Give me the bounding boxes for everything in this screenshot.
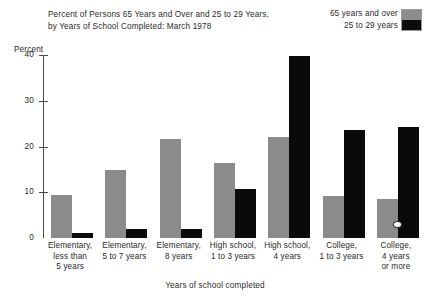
bar-65-and-over-5	[323, 196, 344, 238]
x-category-label-0: Elementary,less than5 years	[39, 241, 101, 273]
x-category-label-3-line-1: 1 to 3 years	[202, 252, 264, 263]
x-category-label-0-line-1: less than	[39, 252, 101, 263]
x-category-label-2-line-0: Elementary,	[148, 241, 210, 252]
x-category-label-5: College,1 to 3 years	[310, 241, 372, 262]
legend-label-65-and-over: 65 years and over	[330, 8, 398, 20]
x-category-label-0-line-0: Elementary,	[39, 241, 101, 252]
plot-area: 010203040	[43, 55, 423, 238]
bar-25-to-29-3	[235, 189, 256, 238]
bar-65-and-over-4	[268, 137, 289, 238]
chart-legend: 65 years and over 25 to 29 years	[330, 8, 422, 31]
x-category-label-2: Elementary,8 years	[148, 241, 210, 262]
bar-25-to-29-4	[289, 56, 310, 238]
chart-title-line-1: Percent of Persons 65 Years and Over and…	[48, 9, 323, 21]
x-category-label-3: High school,1 to 3 years	[202, 241, 264, 262]
x-category-label-4-line-0: High school,	[256, 241, 318, 252]
y-tick-label-20: 20	[25, 142, 34, 151]
bar-65-and-over-3	[214, 163, 235, 238]
y-tick-label-10: 10	[25, 187, 34, 196]
x-category-label-4-line-1: 4 years	[256, 252, 318, 263]
x-category-label-1-line-0: Elementary,	[93, 241, 155, 252]
x-category-label-5-line-0: College,	[310, 241, 372, 252]
bar-65-and-over-2	[160, 139, 181, 238]
chart-title-line-2: by Years of School Completed: March 1978	[48, 21, 323, 33]
x-category-label-5-line-1: 1 to 3 years	[310, 252, 372, 263]
chart-title: Percent of Persons 65 Years and Over and…	[48, 9, 323, 32]
bar-25-to-29-0	[72, 233, 93, 238]
y-tick-label-30: 30	[25, 96, 34, 105]
chart-page: Percent of Persons 65 Years and Over and…	[0, 0, 430, 301]
scan-artifact	[393, 221, 402, 228]
y-tick-label-0: 0	[29, 233, 34, 242]
legend-swatch-black	[402, 20, 421, 30]
bar-25-to-29-2	[181, 229, 202, 238]
x-category-label-0-line-2: 5 years	[39, 262, 101, 273]
bar-25-to-29-5	[344, 130, 365, 238]
x-category-label-6-line-0: College,	[365, 241, 427, 252]
bar-65-and-over-0	[51, 195, 72, 238]
x-axis-label: Years of school completed	[0, 281, 430, 290]
x-category-label-6-line-2: or more	[365, 262, 427, 273]
bars-layer	[43, 55, 423, 238]
legend-swatch	[401, 9, 422, 31]
x-axis-category-labels: Elementary,less than5 yearsElementary,5 …	[43, 241, 423, 281]
bar-65-and-over-6	[377, 199, 398, 238]
bar-25-to-29-1	[126, 229, 147, 238]
x-category-label-1-line-1: 5 to 7 years	[93, 252, 155, 263]
x-category-label-4: High school,4 years	[256, 241, 318, 262]
bar-65-and-over-1	[105, 170, 126, 238]
x-category-label-6: College,4 yearsor more	[365, 241, 427, 273]
x-category-label-6-line-1: 4 years	[365, 252, 427, 263]
legend-labels: 65 years and over 25 to 29 years	[330, 8, 398, 31]
x-category-label-3-line-0: High school,	[202, 241, 264, 252]
legend-label-25-to-29: 25 to 29 years	[330, 20, 398, 32]
x-category-label-2-line-1: 8 years	[148, 252, 210, 263]
x-category-label-1: Elementary,5 to 7 years	[93, 241, 155, 262]
legend-swatch-gray	[402, 10, 421, 20]
y-tick-label-40: 40	[25, 50, 34, 59]
